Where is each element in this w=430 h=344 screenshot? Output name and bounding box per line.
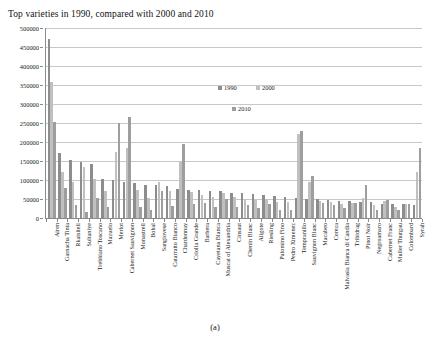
x-tick-mark xyxy=(218,219,219,222)
x-tick-mark xyxy=(164,219,165,222)
legend-swatch-icon-2000 xyxy=(256,86,260,90)
x-tick-label: Bobal xyxy=(150,223,156,238)
bar xyxy=(311,176,314,218)
x-tick-mark xyxy=(175,219,176,222)
bar xyxy=(419,148,422,218)
bar xyxy=(354,203,357,218)
x-tick-mark xyxy=(293,219,294,222)
bar-group xyxy=(272,28,283,218)
bar xyxy=(193,204,196,218)
bar-group xyxy=(186,28,197,218)
x-tick-label: Malvasia Bianca di Candia xyxy=(344,223,350,290)
bar xyxy=(85,212,88,218)
x-tick-mark xyxy=(67,219,68,222)
bar xyxy=(118,123,121,218)
bar-group xyxy=(304,28,315,218)
x-tick-label: Negroamaro xyxy=(376,223,382,254)
x-tick-label: Cabernet Sauvignon xyxy=(129,223,135,273)
bar xyxy=(204,203,207,218)
chart-legend: 1990 2000 2010 xyxy=(218,84,308,118)
bar xyxy=(268,204,271,218)
bar-group xyxy=(89,28,100,218)
bar-group xyxy=(401,28,412,218)
bar-group xyxy=(358,28,369,218)
y-tick-label: 400000 xyxy=(20,63,39,70)
x-tick-mark xyxy=(358,219,359,222)
chart-figure: Top varieties in 1990, compared with 200… xyxy=(0,0,430,344)
x-tick-mark xyxy=(89,219,90,222)
y-tick-mark xyxy=(40,123,43,124)
bar xyxy=(376,210,379,218)
x-tick-mark xyxy=(121,219,122,222)
y-tick-label: 50000 xyxy=(23,196,39,203)
x-tick-label: Merlot xyxy=(118,223,124,240)
y-tick-label: 350000 xyxy=(20,82,39,89)
y-tick-label: 0 xyxy=(36,215,39,222)
bar xyxy=(247,205,250,218)
x-tick-label: Syrah xyxy=(419,223,425,237)
bar-group xyxy=(336,28,347,218)
x-tick-label: Colombard xyxy=(408,223,414,251)
y-tick-mark xyxy=(40,66,43,67)
x-tick-label: Sangiovese xyxy=(161,223,167,251)
x-tick-mark xyxy=(379,219,380,222)
x-tick-label: Monastrell xyxy=(140,223,146,250)
x-tick-label: Palomino Fino xyxy=(279,223,285,260)
bar xyxy=(53,122,56,218)
x-tick-mark xyxy=(261,219,262,222)
y-tick-mark xyxy=(40,85,43,86)
x-tick-label: Muscat of Alexandria xyxy=(225,223,231,277)
x-tick-label: Chenin Blanc xyxy=(247,223,253,257)
x-tick-mark xyxy=(282,219,283,222)
x-tick-mark xyxy=(57,219,58,222)
x-tick-mark xyxy=(239,219,240,222)
y-tick-mark xyxy=(40,28,43,29)
bar xyxy=(139,207,142,218)
x-tick-label: Cinsaut xyxy=(236,223,242,242)
y-tick-label: 100000 xyxy=(20,177,39,184)
bar xyxy=(300,131,303,218)
y-tick-label: 300000 xyxy=(20,101,39,108)
bar-group xyxy=(143,28,154,218)
bar xyxy=(386,200,389,218)
bar-group xyxy=(110,28,121,218)
x-tick-label: Barbera xyxy=(204,223,210,243)
bar-group xyxy=(347,28,358,218)
x-axis-ticks xyxy=(46,219,422,222)
x-tick-mark xyxy=(368,219,369,222)
bar-group xyxy=(261,28,272,218)
x-tick-label: Cayetana Blanca xyxy=(215,223,221,265)
bar-group xyxy=(250,28,261,218)
bar-group xyxy=(325,28,336,218)
bar xyxy=(225,199,228,218)
x-tick-label: Mazuelo xyxy=(107,223,113,245)
bar xyxy=(236,207,239,218)
bar-group xyxy=(100,28,111,218)
bar-group xyxy=(229,28,240,218)
y-tick-mark xyxy=(40,218,43,219)
bar-group xyxy=(207,28,218,218)
bar xyxy=(182,144,185,218)
x-tick-mark xyxy=(229,219,230,222)
legend-item-2000: 2000 xyxy=(256,84,275,91)
bar xyxy=(279,210,282,218)
bar-group xyxy=(293,28,304,218)
x-tick-label: Chardonnay xyxy=(182,223,188,253)
bar-group xyxy=(368,28,379,218)
x-tick-mark xyxy=(336,219,337,222)
x-tick-mark xyxy=(153,219,154,222)
x-tick-label: Catarratto Bianco xyxy=(172,223,178,267)
x-tick-label: Sauvignon Blanc xyxy=(311,223,317,265)
bar-group xyxy=(153,28,164,218)
y-axis-ticks: 5000004500004000003500003000002500002000… xyxy=(0,0,46,230)
bar xyxy=(107,207,110,218)
x-tick-mark xyxy=(250,219,251,222)
y-tick-mark xyxy=(40,180,43,181)
legend-swatch-icon-2010 xyxy=(232,107,236,111)
x-tick-label: Criolla Grande xyxy=(193,223,199,260)
y-tick-mark xyxy=(40,104,43,105)
y-tick-label: 450000 xyxy=(20,44,39,51)
legend-item-1990: 1990 xyxy=(218,84,237,91)
bar-group xyxy=(411,28,422,218)
x-tick-label: Tempranillo xyxy=(301,223,307,253)
